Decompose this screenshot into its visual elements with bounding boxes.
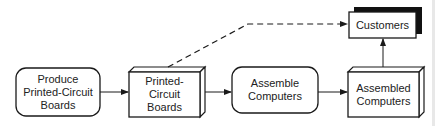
pcb-label: Printed- Circuit Boards	[129, 72, 200, 117]
assembled-computers-label: Assembled Computers	[348, 72, 419, 117]
dashed-arrow-pcb-to-customers	[168, 24, 347, 67]
produce-pcb-label: Produce Printed-Circuit Boards	[16, 68, 100, 116]
assemble-computers-label: Assemble Computers	[232, 67, 318, 113]
customers-label: Customers	[349, 12, 416, 38]
